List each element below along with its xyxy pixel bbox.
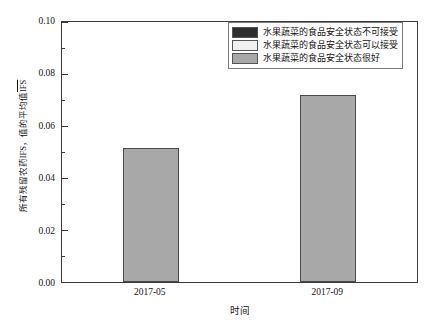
y-tick-label-3: 0.06 [38, 122, 55, 132]
y-minor-tick-0 [62, 256, 65, 257]
legend-swatch-icon-1 [232, 40, 258, 51]
y-axis-title-overline: IFS [18, 80, 28, 92]
bar-2017-09[interactable] [300, 95, 356, 282]
plot-area: 水果蔬菜的食品安全状态不可接受 水果蔬菜的食品安全状态可以接受 水果蔬菜的食品安… [61, 21, 418, 283]
y-axis-title-prefix: 所有残留农药IFS，值的平均值 [18, 92, 28, 212]
y-major-tick-0 [62, 282, 68, 283]
legend-swatch-icon-2 [232, 53, 258, 64]
y-major-tick-3 [62, 126, 68, 127]
y-tick-label-2: 0.04 [38, 174, 55, 184]
legend-swatch-icon-0 [232, 27, 258, 38]
y-tick-label-0: 0.00 [38, 279, 55, 289]
y-major-tick-2 [62, 178, 68, 179]
legend-label-1: 水果蔬菜的食品安全状态可以接受 [263, 41, 398, 50]
y-major-tick-4 [62, 74, 68, 75]
legend-item-2[interactable]: 水果蔬菜的食品安全状态很好 [232, 52, 398, 65]
y-minor-tick-3 [62, 100, 65, 101]
y-tick-label-4: 0.08 [38, 69, 55, 79]
y-tick-label-1: 0.02 [38, 227, 55, 237]
legend-item-0[interactable]: 水果蔬菜的食品安全状态不可接受 [232, 26, 398, 39]
x-tick-label-0: 2017-05 [134, 287, 166, 297]
y-axis-title: 所有残留农药IFS，值的平均值IFS [16, 26, 28, 266]
x-tick-label-1: 2017-09 [311, 287, 343, 297]
bar-2017-05[interactable] [123, 148, 179, 282]
y-major-tick-1 [62, 230, 68, 231]
y-tick-label-5: 0.10 [38, 17, 55, 27]
legend: 水果蔬菜的食品安全状态不可接受 水果蔬菜的食品安全状态可以接受 水果蔬菜的食品安… [228, 22, 403, 69]
y-minor-tick-2 [62, 152, 65, 153]
legend-label-2: 水果蔬菜的食品安全状态很好 [263, 54, 380, 63]
legend-label-0: 水果蔬菜的食品安全状态不可接受 [263, 28, 398, 37]
y-minor-tick-1 [62, 204, 65, 205]
x-axis-tick-labels: 2017-05 2017-09 [61, 287, 418, 301]
y-minor-tick-4 [62, 48, 65, 49]
chart-figure: 0.00 0.02 0.04 0.06 0.08 0.10 所有残留农药IFS，… [0, 0, 432, 326]
x-axis-title: 时间 [61, 303, 418, 317]
legend-item-1[interactable]: 水果蔬菜的食品安全状态可以接受 [232, 39, 398, 52]
y-major-tick-5 [62, 22, 68, 23]
